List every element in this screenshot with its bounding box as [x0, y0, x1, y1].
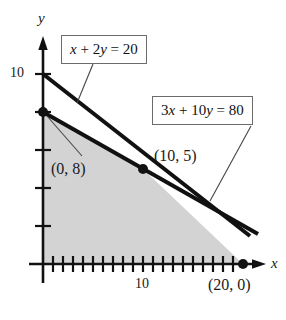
point-marker-10-5: [138, 164, 148, 174]
x-axis-label: x: [271, 255, 278, 272]
equation-text-line1: x + 2y = 20: [70, 41, 138, 57]
equation-box-line2: 3x + 10y = 80: [152, 96, 253, 125]
point-label-20-0: (20, 0): [208, 276, 251, 294]
feasible-region-shading: [43, 112, 243, 264]
y-tick-label-10: 10: [10, 65, 24, 81]
equation-box-line1: x + 2y = 20: [61, 35, 147, 64]
x-tick-label-10: 10: [135, 276, 149, 292]
point-label-0-8: (0, 8): [51, 160, 86, 178]
figure-canvas: y x 10 10 x + 2y = 20 3x + 10y = 80 (0, …: [0, 0, 286, 320]
point-label-10-5: (10, 5): [154, 147, 197, 165]
equation-text-line2: 3x + 10y = 80: [161, 102, 244, 118]
point-marker-0-8: [38, 107, 48, 117]
point-marker-20-0: [238, 259, 248, 269]
leader-line-eq1: [77, 64, 93, 103]
y-axis-label: y: [38, 10, 45, 27]
leader-line-eq2: [210, 126, 251, 201]
